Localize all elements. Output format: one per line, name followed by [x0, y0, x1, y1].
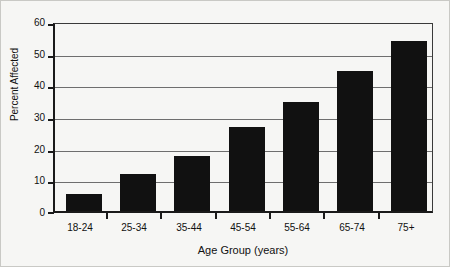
y-tick-mark-40 [48, 87, 54, 89]
y-tick-mark-20 [48, 151, 54, 153]
x-axis-labels: 18-24 25-34 35-44 45-54 55-64 65-74 75+ [53, 213, 433, 241]
gridline-50 [55, 56, 432, 57]
gridline-30 [55, 119, 432, 120]
x-tick-label-65-74: 65-74 [325, 222, 379, 233]
y-tick-mark-60 [48, 24, 54, 26]
x-tick-label-18-24: 18-24 [53, 222, 107, 233]
y-tick-label-30: 30 [34, 113, 45, 123]
x-tick-mark-5 [323, 213, 325, 219]
bar-35-44 [174, 156, 210, 211]
y-tick-label-40: 40 [34, 81, 45, 91]
x-tick-mark-3 [215, 213, 217, 219]
x-tick-label-25-34: 25-34 [107, 222, 161, 233]
x-tick-label-55-64: 55-64 [270, 222, 324, 233]
y-tick-mark-30 [48, 119, 54, 121]
x-tick-mark-2 [160, 213, 162, 219]
bar-65-74 [337, 71, 373, 211]
bar-55-64 [283, 102, 319, 211]
x-tick-mark-4 [269, 213, 271, 219]
bar-chart-figure: 60 50 40 30 20 10 0 Percent Affected [0, 0, 450, 267]
bar-18-24 [66, 194, 102, 211]
plot-area [53, 23, 433, 213]
y-tick-mark-10 [48, 182, 54, 184]
bar-25-34 [120, 174, 156, 211]
x-tick-label-45-54: 45-54 [216, 222, 270, 233]
x-tick-mark-1 [106, 213, 108, 219]
x-tick-label-35-44: 35-44 [162, 222, 216, 233]
x-axis-title: Age Group (years) [53, 244, 433, 256]
y-tick-label-20: 20 [34, 145, 45, 155]
y-tick-mark-50 [48, 56, 54, 58]
x-tick-label-75-plus: 75+ [379, 222, 433, 233]
x-tick-mark-6 [378, 213, 380, 219]
gridline-40 [55, 87, 432, 88]
y-tick-label-50: 50 [34, 50, 45, 60]
y-tick-label-60: 60 [34, 18, 45, 28]
bar-75-plus [391, 41, 427, 211]
bar-45-54 [229, 127, 265, 211]
y-axis-title: Percent Affected [9, 25, 20, 145]
y-tick-label-10: 10 [34, 176, 45, 186]
y-tick-label-0: 0 [39, 208, 45, 218]
